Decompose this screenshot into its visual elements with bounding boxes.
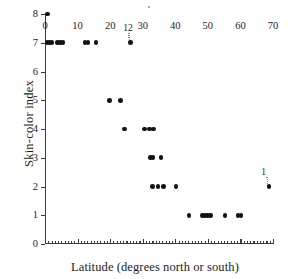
x-tick-minor-32 [149,241,150,244]
x-tick-label-50: 50 [193,20,223,31]
x-tick-minor-37 [166,241,167,244]
x-tick-minor-67 [263,241,264,244]
plot-area: 012345678 010203040506070 121 [45,14,273,244]
x-tick-major-50 [208,239,209,244]
x-tick-minor-66 [260,241,261,244]
x-tick-minor-64 [253,241,254,244]
x-tick-label-0: 0 [30,20,60,31]
data-point [150,184,155,189]
x-tick-minor-15 [94,241,95,244]
x-tick-minor-57 [231,241,232,244]
data-point [151,155,156,160]
data-point [187,213,192,218]
annotation-label-12: 12 [123,23,133,33]
x-tick-label-60: 60 [225,20,255,31]
x-tick-minor-7 [68,241,69,244]
x-tick-minor-65 [257,241,258,244]
data-point [94,40,99,45]
annotation-leader-dot [266,177,267,178]
annotation-leader-dot [128,37,129,38]
x-tick-minor-16 [97,241,98,244]
x-tick-minor-41 [179,241,180,244]
x-tick-minor-2 [52,241,53,244]
y-tick-4: 4 [41,129,46,130]
x-tick-minor-5 [61,241,62,244]
x-tick-minor-6 [65,241,66,244]
x-tick-minor-35 [159,241,160,244]
x-tick-minor-43 [185,241,186,244]
x-tick-minor-28 [136,241,137,244]
x-tick-minor-56 [227,241,228,244]
x-tick-minor-38 [169,241,170,244]
x-tick-minor-33 [152,241,153,244]
y-tick-6: 6 [41,72,46,73]
x-tick-minor-61 [244,241,245,244]
x-tick-minor-39 [172,241,173,244]
x-tick-minor-27 [133,241,134,244]
data-point [45,12,50,17]
data-point [208,213,213,218]
data-point [151,127,156,132]
y-tick-0: 0 [41,244,46,245]
x-tick-minor-31 [146,241,147,244]
y-tick-label-5: 5 [33,93,38,106]
x-tick-label-70: 70 [258,20,288,31]
data-point [239,213,244,218]
x-tick-minor-8 [71,241,72,244]
data-point [267,184,272,189]
data-point [61,40,66,45]
x-tick-minor-22 [117,241,118,244]
x-tick-minor-26 [130,241,131,244]
x-tick-minor-13 [87,241,88,244]
data-point [159,155,164,160]
x-tick-minor-21 [113,241,114,244]
y-tick-label-7: 7 [33,36,38,49]
y-tick-label-3: 3 [33,151,38,164]
data-point [128,40,133,45]
x-tick-minor-48 [201,241,202,244]
x-tick-minor-29 [139,241,140,244]
annotation-leader-dot [128,35,129,36]
data-point [223,213,228,218]
x-tick-major-10 [78,239,79,244]
x-tick-minor-23 [120,241,121,244]
x-tick-minor-9 [74,241,75,244]
x-tick-minor-14 [91,241,92,244]
x-tick-minor-45 [192,241,193,244]
x-tick-minor-4 [58,241,59,244]
data-point [174,184,179,189]
y-axis-line [45,14,46,244]
x-tick-minor-58 [234,241,235,244]
x-tick-major-20 [110,239,111,244]
x-tick-minor-46 [195,241,196,244]
x-tick-minor-36 [162,241,163,244]
scatter-plot-figure: Skin-color index Latitude (degrees north… [0,0,288,279]
x-tick-minor-49 [205,241,206,244]
x-tick-minor-47 [198,241,199,244]
x-tick-minor-55 [224,241,225,244]
data-point [118,98,123,103]
data-point [122,127,127,132]
page-speck-artifact [148,6,150,8]
annotation-leader-dot [267,181,268,182]
y-tick-label-1: 1 [33,208,38,221]
x-tick-minor-17 [100,241,101,244]
x-tick-minor-25 [126,241,127,244]
x-tick-minor-52 [214,241,215,244]
y-tick-3: 3 [41,158,46,159]
data-point [161,184,166,189]
y-tick-label-8: 8 [33,7,38,20]
x-tick-minor-12 [84,241,85,244]
x-tick-label-40: 40 [160,20,190,31]
y-tick-5: 5 [41,100,46,101]
x-tick-major-30 [143,239,144,244]
y-tick-1: 1 [41,215,46,216]
x-tick-minor-68 [266,241,267,244]
data-point [156,184,161,189]
x-axis-title: Latitude (degrees north or south) [38,260,272,275]
x-tick-minor-53 [218,241,219,244]
x-tick-minor-3 [55,241,56,244]
x-tick-major-70 [273,239,274,244]
x-tick-minor-59 [237,241,238,244]
x-tick-minor-11 [81,241,82,244]
